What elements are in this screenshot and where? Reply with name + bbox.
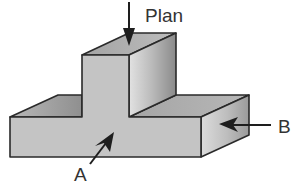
t-solid	[10, 33, 249, 157]
a-label: A	[74, 164, 87, 181]
base-left-top-face	[10, 95, 82, 117]
b-label: B	[278, 116, 291, 137]
t-shape-isometric-diagram: Plan B A	[0, 0, 292, 181]
plan-label: Plan	[145, 5, 183, 26]
